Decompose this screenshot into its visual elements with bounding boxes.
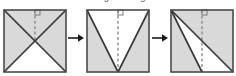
step-2-figure bbox=[86, 9, 150, 73]
figure-canvas: fold along the diagonals bbox=[0, 0, 236, 76]
arrow-head-icon bbox=[78, 34, 84, 42]
arrow-step1-to-step2 bbox=[68, 33, 84, 43]
step-3-figure bbox=[170, 9, 234, 73]
clipped-caption-strip: fold along the diagonals bbox=[0, 0, 236, 3]
step-2-shaded-regions bbox=[87, 10, 149, 72]
arrow-step2-to-step3 bbox=[152, 33, 168, 43]
arrow-head-icon bbox=[162, 34, 168, 42]
step-1-figure bbox=[3, 9, 67, 73]
